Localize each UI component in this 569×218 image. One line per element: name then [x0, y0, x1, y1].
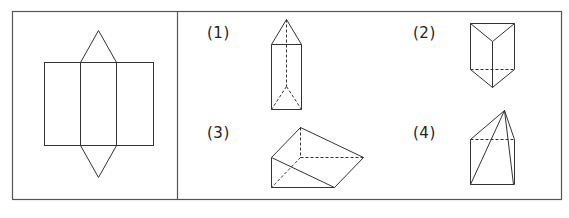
- option-label-4: (4): [413, 124, 436, 142]
- diagram-canvas: [0, 0, 569, 218]
- option-label-3: (3): [207, 124, 230, 142]
- solid-option-4: [471, 111, 515, 185]
- option-label-2: (2): [413, 24, 436, 42]
- prism-net: [45, 31, 154, 178]
- solid-option-2: [471, 24, 515, 88]
- option-label-1: (1): [207, 24, 230, 42]
- solid-option-1: [272, 20, 302, 110]
- solid-option-3: [272, 128, 364, 188]
- diagram-frame: (1) (2) (3) (4): [0, 0, 569, 218]
